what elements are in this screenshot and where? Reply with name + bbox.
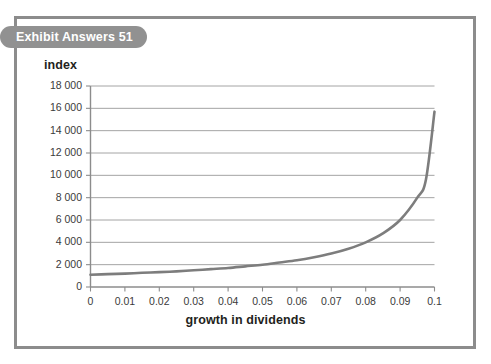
y-tick-label: 4 000 bbox=[24, 235, 82, 247]
y-tick-label: 0 bbox=[24, 280, 82, 292]
y-tick-label: 10 000 bbox=[24, 168, 82, 180]
x-axis-title: growth in dividends bbox=[0, 313, 491, 327]
y-tick-label: 18 000 bbox=[24, 79, 82, 91]
y-tick-label: 16 000 bbox=[24, 101, 82, 113]
y-tick-label: 6 000 bbox=[24, 213, 82, 225]
x-tick-label: 0.1 bbox=[413, 295, 457, 307]
y-tick-label: 8 000 bbox=[24, 191, 82, 203]
y-axis-title: index bbox=[44, 58, 77, 72]
y-tick-label: 2 000 bbox=[24, 258, 82, 270]
y-tick-label: 14 000 bbox=[24, 124, 82, 136]
exhibit-title-pill: Exhibit Answers 51 bbox=[0, 26, 147, 48]
y-tick-label: 12 000 bbox=[24, 146, 82, 158]
